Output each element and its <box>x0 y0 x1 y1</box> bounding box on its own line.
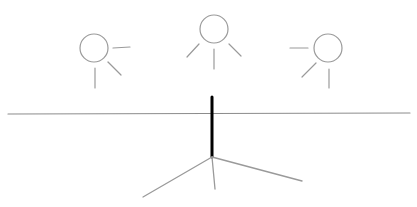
sun-ray <box>302 63 316 77</box>
sun-disc <box>80 34 108 62</box>
sundial-diagram <box>0 0 417 207</box>
sun-center-icon <box>187 15 241 69</box>
diagram-canvas <box>0 0 417 207</box>
sun-left-icon <box>80 34 130 88</box>
sun-ray <box>229 44 241 56</box>
base-leg <box>212 157 215 189</box>
sun-right-icon <box>290 34 342 88</box>
ground-line <box>8 113 410 114</box>
sun-disc <box>314 34 342 62</box>
sun-ray <box>108 62 121 75</box>
base-leg <box>212 157 302 181</box>
base-leg <box>143 157 212 197</box>
suns-group <box>80 15 342 88</box>
sun-disc <box>200 15 228 43</box>
base-legs-group <box>143 157 302 197</box>
sun-ray <box>113 47 130 48</box>
sun-ray <box>187 44 199 57</box>
